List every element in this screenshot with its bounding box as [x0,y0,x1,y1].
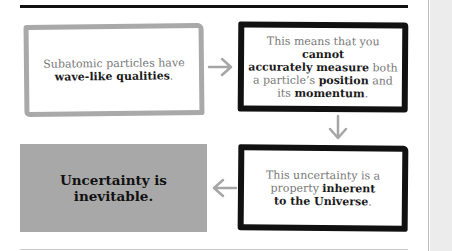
node-text: This means that you [267,34,380,48]
node-emphasis: inevitable. [74,188,153,204]
node-text: its [277,86,294,99]
arrow-left-icon [210,177,238,199]
node-wave-like-qualities: Subatomic particles have wave-like quali… [24,23,205,117]
node-text: a particle’s [253,73,319,86]
node-text: . [368,195,372,208]
node-emphasis: position [319,73,369,86]
page-divider [428,0,429,251]
node-emphasis: momentum [294,86,364,99]
arrow-down-icon [327,114,349,142]
arrow-right-icon [207,56,235,78]
node-emphasis: cannot [302,47,344,60]
node-uncertainty-is-inevitable: Uncertainty is inevitable. [20,144,207,232]
top-rule [20,5,408,8]
node-emphasis: inherent [322,181,375,194]
node-emphasis: Uncertainty is [60,172,167,188]
node-cannot-measure: This means that you cannot accurately me… [238,21,409,112]
diagram-page: Subatomic particles have wave-like quali… [0,0,428,251]
node-text: both [369,61,398,74]
node-text: and [369,74,393,87]
bottom-rule [20,249,408,250]
node-inherent-to-universe: This uncertainty is a property inherent … [238,144,409,231]
node-emphasis: wave-like qualities [55,69,170,83]
node-text: This uncertainty is a [266,168,380,182]
node-text: . [365,87,369,100]
node-text: . [170,69,174,82]
side-margin [430,0,452,251]
node-emphasis: accurately measure [248,60,369,74]
node-emphasis: to the Universe [274,194,368,208]
node-text: property [270,181,322,194]
